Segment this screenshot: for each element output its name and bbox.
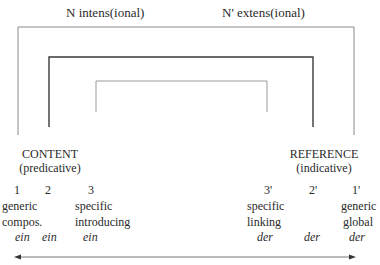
- column-1prime-line2: global: [343, 215, 373, 229]
- column-number-2: 2: [45, 183, 51, 197]
- column-number-1: 1: [14, 183, 20, 197]
- article-3: ein: [83, 230, 98, 244]
- column-1-line2: compos.: [2, 215, 42, 229]
- article-1: ein: [15, 230, 30, 244]
- reference-subtitle: (indicative): [286, 161, 362, 175]
- extensional-label: N' extens(ional): [222, 6, 305, 20]
- column-3prime-line2: linking: [247, 215, 281, 229]
- intensional-label: N intens(ional): [66, 6, 144, 20]
- article-2prime: der: [304, 230, 320, 244]
- article-2: ein: [42, 230, 57, 244]
- content-subtitle: (predicative): [14, 161, 86, 175]
- bracket-diagram: [0, 0, 380, 265]
- column-number-1prime: 1': [352, 183, 360, 197]
- right-arrowhead-icon: [349, 255, 356, 260]
- article-3prime: der: [257, 230, 273, 244]
- column-1prime-line1: generic: [341, 199, 376, 213]
- column-3-line2: introducing: [75, 215, 130, 229]
- column-number-3: 3: [88, 183, 94, 197]
- column-3-line1: specific: [75, 199, 112, 213]
- left-arrowhead-icon: [14, 255, 21, 260]
- article-1prime: der: [349, 230, 365, 244]
- column-3prime-line1: specific: [247, 199, 284, 213]
- content-title: CONTENT: [18, 147, 82, 161]
- inner-bracket: [96, 81, 267, 112]
- column-number-2prime: 2': [309, 183, 317, 197]
- middle-bracket: [49, 57, 313, 127]
- column-number-3prime: 3': [264, 183, 272, 197]
- column-1-line1: generic: [2, 199, 37, 213]
- reference-title: REFERENCE: [286, 147, 362, 161]
